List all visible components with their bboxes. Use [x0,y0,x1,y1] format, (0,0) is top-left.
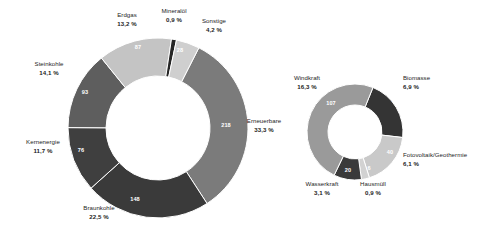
label-sonstige-percent: 4,2 % [192,26,236,35]
label-hausmuell-percent: 0,9 % [350,189,396,198]
label-mineraloel: Mineralöl 0,9 % [151,7,197,24]
value-wasserkraft: 20 [345,167,351,173]
label-hausmuell: Hausmüll 0,9 % [350,180,396,197]
label-sonstige-name: Sonstige [202,17,226,24]
label-windkraft: Windkraft 16,3 % [280,74,334,91]
label-kernenergie: Kernenergie 11,7 % [17,138,69,155]
label-mineraloel-name: Mineralöl [161,7,186,14]
value-hausmuell: 6 [367,165,370,171]
label-wasserkraft-percent: 3,1 % [295,189,349,198]
label-erdgas: Erdgas 13,2 % [103,11,151,28]
label-braunkohle-percent: 22,5 % [73,213,125,222]
chart-canvas: Erdgas 13,2 % Mineralöl 0,9 % Sonstige 4… [0,0,494,234]
label-erneuerbare-percent: 33,3 % [237,126,291,135]
value-biomasse: 46 [392,98,398,104]
left-donut-chart [68,38,248,218]
value-kernenergie: 76 [78,147,84,153]
value-windkraft: 107 [326,100,336,106]
label-wasserkraft-name: Wasserkraft [306,180,339,187]
value-braunkohle: 148 [130,196,140,202]
label-erdgas-percent: 13,2 % [103,20,151,29]
label-hausmuell-name: Hausmüll [360,180,386,187]
right-donut-chart [307,84,403,180]
value-erneuerbare: 218 [221,122,231,128]
label-windkraft-percent: 16,3 % [280,83,334,92]
label-sonstige: Sonstige 4,2 % [192,17,236,34]
label-kernenergie-percent: 11,7 % [17,147,69,156]
label-steinkohle-name: Steinkohle [35,60,64,67]
label-fotovoltaik-geothermie-name: Fotovoltaik/Geothermie [403,151,467,158]
value-sonstige: 28 [177,47,183,53]
label-biomasse: Biomasse 6,9 % [403,74,463,91]
donut-slice-fotovoltaik-geothermie[interactable] [363,135,403,178]
donut-slice-biomasse[interactable] [365,87,403,137]
label-mineraloel-percent: 0,9 % [151,16,197,25]
label-steinkohle-percent: 14,1 % [24,69,74,78]
label-erdgas-name: Erdgas [117,11,137,18]
label-braunkohle: Braunkohle 22,5 % [73,204,125,221]
label-biomasse-percent: 6,9 % [403,83,463,92]
label-erneuerbare: Erneuerbare 33,3 % [237,117,291,134]
label-biomasse-name: Biomasse [403,74,430,81]
label-steinkohle: Steinkohle 14,1 % [24,60,74,77]
label-wasserkraft: Wasserkraft 3,1 % [295,180,349,197]
label-braunkohle-name: Braunkohle [83,204,114,211]
label-fotovoltaik-geothermie-percent: 6,1 % [403,160,494,169]
value-fotovoltaik-geothermie: 40 [387,149,393,155]
label-kernenergie-name: Kernenergie [26,138,60,145]
label-windkraft-name: Windkraft [294,74,320,81]
value-steinkohle: 93 [82,89,88,95]
label-erneuerbare-name: Erneuerbare [247,117,281,124]
value-erdgas: 87 [135,44,141,50]
label-fotovoltaik-geothermie: Fotovoltaik/Geothermie 6,1 % [403,151,494,168]
